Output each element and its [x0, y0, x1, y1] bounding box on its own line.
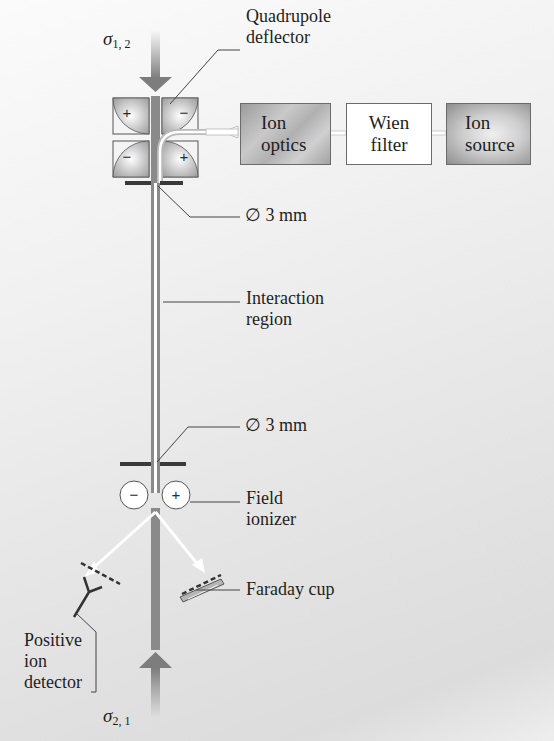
beam-label-bottom: σ2, 1 — [103, 705, 130, 732]
label-aperture-bottom: ∅ 3 mm — [245, 415, 307, 436]
label-quadrupole-deflector: Quadrupole deflector — [246, 6, 331, 48]
sign-ionizer-right: + — [172, 486, 181, 503]
beam-label-top: σ1, 2 — [103, 28, 130, 55]
box-wien-filter: Wien filter — [346, 103, 432, 165]
label-faraday-cup: Faraday cup — [246, 579, 334, 600]
leader-aperture-bottom — [157, 427, 240, 462]
box-ion-source: Ion source — [446, 103, 531, 165]
incoming-beam-arrow-top — [139, 30, 172, 92]
label-aperture-top: ∅ 3 mm — [245, 205, 307, 226]
label-positive-ion-detector: Positive ion detector — [24, 630, 82, 693]
incoming-beam-arrow-bottom — [139, 652, 172, 718]
leader-quadrupole — [170, 50, 240, 104]
label-interaction-region: Interaction region — [246, 288, 324, 330]
sign-quad-top-left: + — [123, 104, 132, 121]
label-field-ionizer: Field ionizer — [246, 488, 296, 530]
deflected-ion-paths — [84, 512, 205, 577]
leader-aperture-top — [158, 186, 240, 217]
sign-quad-bottom-right: + — [180, 148, 189, 165]
beam-column-bottom — [151, 508, 160, 650]
sign-quad-bottom-left: − — [123, 148, 132, 165]
interaction-tube — [151, 183, 160, 493]
sign-quad-top-right: − — [180, 104, 189, 121]
box-ion-optics: Ion optics — [240, 103, 331, 165]
sign-ionizer-left: − — [130, 486, 139, 503]
faraday-cup — [180, 575, 224, 602]
